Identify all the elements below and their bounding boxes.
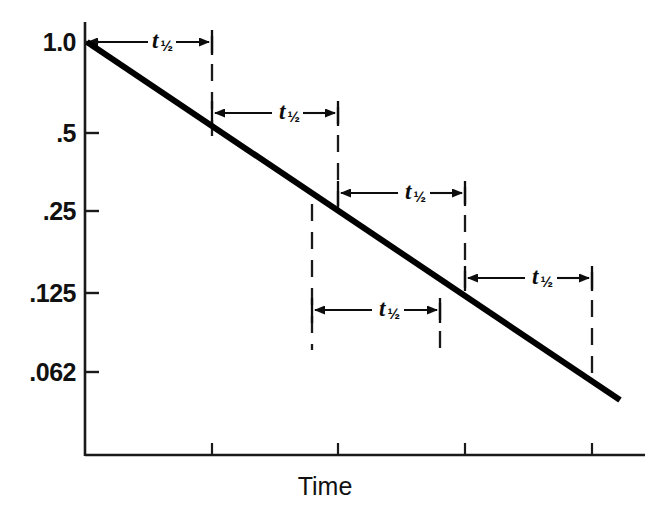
halflife-label-1-frac: ½: [160, 37, 172, 54]
halflife-span-3: [338, 181, 465, 206]
y-tick-label-2: .5: [0, 119, 76, 148]
halflife-label-5-frac: ½: [540, 273, 552, 290]
dashed-drop-lines: [212, 36, 592, 378]
half-life-decay-figure: 1.0 .5 .25 .125 .062 t½ t½ t½ t½ t½ Time: [0, 0, 650, 512]
x-axis-title: Time: [265, 472, 385, 501]
axes-group: [85, 22, 645, 456]
halflife-label-2-t: t: [279, 99, 285, 124]
halflife-span-5: [465, 266, 592, 291]
halflife-label-4: t½: [379, 297, 399, 321]
halflife-label-4-t: t: [379, 296, 385, 321]
halflife-label-4-frac: ½: [387, 305, 399, 322]
halflife-label-3-t: t: [405, 179, 411, 204]
decay-line: [87, 42, 620, 400]
halflife-label-2-frac: ½: [287, 108, 299, 125]
halflife-span-2: [212, 101, 338, 126]
y-tick-label-1: 1.0: [0, 28, 76, 57]
y-tick-label-3: .25: [0, 197, 76, 226]
halflife-label-5: t½: [532, 265, 552, 289]
halflife-label-2: t½: [279, 100, 299, 124]
halflife-span-1: [88, 30, 212, 55]
halflife-label-5-t: t: [532, 264, 538, 289]
y-tick-marks: [85, 42, 99, 372]
y-tick-label-5: .062: [0, 358, 76, 387]
halflife-label-3: t½: [405, 180, 425, 204]
x-tick-marks: [212, 443, 592, 455]
y-tick-label-4: .125: [0, 279, 76, 308]
halflife-label-3-frac: ½: [413, 188, 425, 205]
halflife-span-4: [312, 298, 440, 323]
decay-plot-svg: [0, 0, 650, 512]
halflife-label-1: t½: [152, 29, 172, 53]
halflife-label-1-t: t: [152, 28, 158, 53]
